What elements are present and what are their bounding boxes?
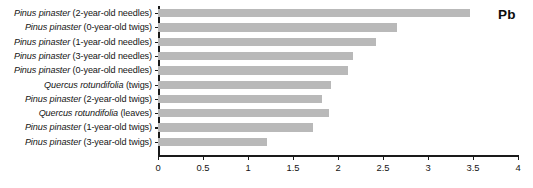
bar	[158, 52, 353, 60]
bar	[158, 123, 313, 131]
x-axis-tick-label: 1	[245, 162, 250, 173]
y-axis-tick	[155, 127, 159, 128]
x-axis-tick	[248, 155, 249, 160]
x-axis-tick-label: 1.5	[286, 162, 299, 173]
bar-row	[158, 135, 518, 149]
y-axis-label: Pinus pinaster (0-year-old twigs)	[0, 22, 152, 32]
x-axis-tick-label: 0.5	[196, 162, 209, 173]
tissue-detail: (3-year-old needles)	[70, 51, 152, 61]
tissue-detail: (0-year-old needles)	[70, 65, 152, 75]
species-name: Pinus pinaster	[25, 122, 81, 132]
bar	[158, 38, 376, 46]
x-axis-tick-label: 0	[155, 162, 160, 173]
species-name: Pinus pinaster	[25, 94, 81, 104]
bar-row	[158, 92, 518, 106]
bar	[158, 109, 329, 117]
x-axis-tick	[203, 155, 204, 160]
species-name: Pinus pinaster	[14, 37, 70, 47]
species-name: Pinus pinaster	[25, 137, 81, 147]
x-axis-tick	[293, 155, 294, 160]
bar	[158, 81, 331, 89]
bar	[158, 23, 397, 31]
y-axis-tick	[155, 70, 159, 71]
y-axis-label: Pinus pinaster (0-year-old needles)	[0, 65, 152, 75]
y-axis-label: Quercus rotundifolia (leaves)	[0, 108, 152, 118]
x-axis-tick-label: 2.5	[376, 162, 389, 173]
x-axis-tick	[158, 155, 159, 160]
plot-area	[158, 6, 518, 155]
y-axis-tick	[155, 27, 159, 28]
species-name: Pinus pinaster	[14, 65, 70, 75]
y-axis-label: Pinus pinaster (3-year-old needles)	[0, 51, 152, 61]
bar-row	[158, 49, 518, 63]
tissue-detail: (0-year-old twigs)	[81, 22, 152, 32]
tissue-detail: (3-year-old twigs)	[81, 137, 152, 147]
tissue-detail: (1-year-old twigs)	[81, 122, 152, 132]
bar-row	[158, 35, 518, 49]
y-axis-label: Pinus pinaster (2-year-old twigs)	[0, 94, 152, 104]
y-axis-tick	[155, 13, 159, 14]
y-axis-tick	[155, 42, 159, 43]
species-name: Quercus rotundifolia	[44, 80, 123, 90]
tissue-detail: (2-year-old needles)	[70, 8, 152, 18]
x-axis-tick-label: 3.5	[466, 162, 479, 173]
bar-chart-figure: Pb Pinus pinaster (2-year-old needles)Pi…	[0, 0, 533, 188]
y-axis-label: Pinus pinaster (3-year-old twigs)	[0, 137, 152, 147]
y-axis-tick	[155, 99, 159, 100]
bar-row	[158, 120, 518, 134]
y-axis-label: Pinus pinaster (1-year-old needles)	[0, 37, 152, 47]
bar	[158, 9, 470, 17]
bar-row	[158, 106, 518, 120]
x-axis-tick	[338, 155, 339, 160]
species-name: Quercus rotundifolia	[39, 108, 118, 118]
bar-row	[158, 63, 518, 77]
tissue-detail: (1-year-old needles)	[70, 37, 152, 47]
x-axis-tick-label: 2	[335, 162, 340, 173]
y-axis-tick	[155, 142, 159, 143]
x-axis-tick	[518, 155, 519, 160]
species-name: Pinus pinaster	[14, 8, 70, 18]
y-axis-tick	[155, 85, 159, 86]
bar	[158, 95, 322, 103]
x-axis-tick	[383, 155, 384, 160]
y-axis-tick	[155, 113, 159, 114]
x-axis-tick	[428, 155, 429, 160]
bar-row	[158, 78, 518, 92]
tissue-detail: (2-year-old twigs)	[81, 94, 152, 104]
y-axis-label: Pinus pinaster (2-year-old needles)	[0, 8, 152, 18]
tissue-detail: (twigs)	[123, 80, 152, 90]
x-axis-tick-label: 3	[425, 162, 430, 173]
bar-row	[158, 20, 518, 34]
y-axis-tick	[155, 56, 159, 57]
bar	[158, 138, 267, 146]
bar-row	[158, 6, 518, 20]
x-axis-tick-label: 4	[515, 162, 520, 173]
species-name: Pinus pinaster	[14, 51, 70, 61]
bar	[158, 66, 348, 74]
y-axis-label: Quercus rotundifolia (twigs)	[0, 80, 152, 90]
species-name: Pinus pinaster	[25, 22, 81, 32]
element-annotation-pb: Pb	[498, 7, 516, 22]
y-axis-label: Pinus pinaster (1-year-old twigs)	[0, 122, 152, 132]
tissue-detail: (leaves)	[118, 108, 152, 118]
x-axis-tick	[473, 155, 474, 160]
